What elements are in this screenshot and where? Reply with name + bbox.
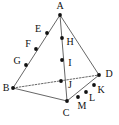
point-marker-j: [59, 79, 63, 83]
point-label-k: K: [97, 85, 104, 95]
edge-bc: [13, 88, 67, 101]
point-label-f: F: [25, 39, 31, 49]
point-marker-i: [60, 58, 64, 62]
point-marker-b: [11, 86, 15, 90]
point-marker-h: [60, 36, 64, 40]
edge-layer: [13, 15, 99, 101]
point-marker-l: [84, 90, 88, 94]
point-marker-e: [45, 31, 49, 35]
point-label-i: I: [68, 58, 71, 68]
point-marker-c: [65, 99, 69, 103]
point-label-e: E: [35, 24, 41, 34]
point-marker-d: [97, 73, 101, 77]
point-marker-k: [92, 83, 96, 87]
point-label-j: J: [68, 80, 72, 90]
point-label-h: H: [66, 37, 73, 47]
point-label-d: D: [105, 69, 112, 79]
geometry-figure: ABCDEFGHIJKLM: [0, 0, 119, 125]
point-marker-a: [58, 13, 62, 17]
point-label-l: L: [89, 93, 95, 103]
point-label-a: A: [56, 1, 63, 11]
point-label-g: G: [13, 56, 20, 66]
point-label-b: B: [3, 83, 10, 93]
point-marker-m: [76, 95, 80, 99]
point-marker-g: [24, 63, 28, 67]
edge-ac: [60, 15, 67, 101]
point-marker-f: [34, 47, 38, 51]
point-label-c: C: [63, 108, 70, 118]
point-label-m: M: [78, 101, 87, 111]
